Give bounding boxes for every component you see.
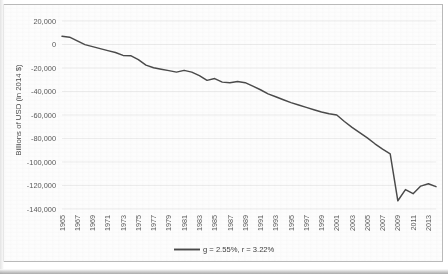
x-axis-tick-label: 1987 [226, 215, 235, 231]
y-axis-tick-label: 0 [52, 40, 56, 49]
x-axis-tick-label: 1971 [103, 215, 112, 231]
line-chart: 20,0000-20,000-40,000-60,000-80,000-100,… [4, 5, 444, 263]
data-series-line [62, 36, 436, 201]
x-axis-tick-label: 2009 [393, 215, 402, 231]
x-axis-tick-label: 1969 [88, 215, 97, 231]
x-axis-tick-label: 2007 [378, 215, 387, 231]
x-axis-tick-label: 1973 [119, 215, 128, 231]
y-axis-tick-label: -120,000 [27, 181, 56, 190]
y-axis-tick-label: 20,000 [33, 17, 56, 26]
x-axis-tick-label: 1997 [302, 215, 311, 231]
x-axis-tick-label: 1985 [210, 215, 219, 231]
y-axis-tick-label: -80,000 [31, 134, 56, 143]
chart-frame: 20,0000-20,000-40,000-60,000-80,000-100,… [3, 4, 443, 262]
x-axis-tick-label: 1977 [149, 215, 158, 231]
page-left-edge [0, 0, 4, 274]
y-axis-tick-label: -140,000 [27, 205, 56, 214]
x-axis-tick-label: 1993 [271, 215, 280, 231]
y-axis-tick-labels: 20,0000-20,000-40,000-60,000-80,000-100,… [27, 17, 56, 214]
x-axis-tick-label: 1967 [73, 215, 82, 231]
x-axis-tick-label: 1965 [58, 215, 67, 231]
x-axis-tick-label: 1979 [164, 215, 173, 231]
gridlines-group [62, 21, 436, 209]
legend-entry-label: g = 2.55%, r = 3.22% [203, 245, 275, 254]
y-axis-tick-label: -20,000 [31, 64, 56, 73]
x-axis-tick-label: 1975 [134, 215, 143, 231]
y-axis-tick-label: -40,000 [31, 87, 56, 96]
x-axis-tick-label: 2003 [348, 215, 357, 231]
x-axis-tick-label: 1999 [317, 215, 326, 231]
x-axis-tick-labels: 1965196719691971197319751977197919811983… [58, 215, 433, 231]
x-axis-tick-label: 2005 [363, 215, 372, 231]
page-bottom-edge [0, 269, 448, 274]
x-axis-tick-label: 1981 [180, 215, 189, 231]
x-axis-tick-label: 1991 [256, 215, 265, 231]
x-axis-tick-label: 2011 [409, 215, 418, 230]
x-axis-tick-label: 2013 [424, 215, 433, 231]
x-axis-tick-label: 2001 [332, 215, 341, 231]
chart-legend: g = 2.55%, r = 3.22% [174, 245, 275, 254]
x-axis-tick-label: 1989 [241, 215, 250, 231]
y-axis-tick-label: -100,000 [27, 158, 56, 167]
y-axis-title: Billions of USD (in 2014 $) [14, 64, 23, 156]
x-axis-tick-label: 1983 [195, 215, 204, 231]
y-axis-tick-label: -60,000 [31, 111, 56, 120]
x-axis-tick-label: 1995 [287, 215, 296, 231]
